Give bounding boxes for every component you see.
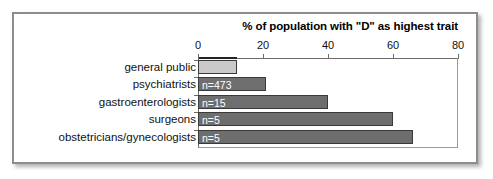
bar-row[interactable]: n=5surgeons — [198, 112, 458, 126]
bar[interactable] — [198, 60, 237, 74]
x-tick-label: 20 — [257, 39, 269, 51]
bar[interactable]: n=15 — [198, 95, 328, 109]
x-tick-mark — [198, 54, 199, 59]
x-tick-label: 40 — [322, 39, 334, 51]
bar[interactable]: n=5 — [198, 112, 393, 126]
x-axis-line-bold-segment — [198, 57, 237, 59]
category-label: surgeons — [0, 112, 196, 126]
x-tick-label: 60 — [387, 39, 399, 51]
bar-row[interactable]: n=5obstetricians/gynecologists — [198, 130, 458, 144]
category-label: psychiatrists — [0, 77, 196, 91]
bar-row[interactable]: n=15gastroenterologists — [198, 95, 458, 109]
bar-sample-size-label: n=473 — [202, 79, 232, 91]
bar-sample-size-label: n=15 — [202, 97, 226, 109]
x-tick-label: 0 — [195, 39, 201, 51]
category-label: obstetricians/gynecologists — [0, 130, 196, 144]
chart-title: % of population with "D" as highest trai… — [14, 20, 458, 32]
x-tick-mark — [263, 54, 264, 59]
bar[interactable]: n=473 — [198, 77, 266, 91]
chart-figure: % of population with "D" as highest trai… — [12, 12, 478, 164]
bar-sample-size-label: n=5 — [202, 114, 220, 126]
x-tick-mark — [393, 54, 394, 59]
category-label: gastroenterologists — [0, 95, 196, 109]
bar-row[interactable]: general public — [198, 60, 458, 74]
plot-area: 020406080 general publicn=473psychiatris… — [198, 59, 458, 147]
category-label: general public — [0, 60, 196, 74]
bar[interactable]: n=5 — [198, 130, 413, 144]
bar-row[interactable]: n=473psychiatrists — [198, 77, 458, 91]
plot-bottom-edge — [198, 147, 458, 148]
x-tick-mark — [458, 54, 459, 59]
bar-sample-size-label: n=5 — [202, 132, 220, 144]
x-tick-label: 80 — [452, 39, 464, 51]
x-tick-mark — [328, 54, 329, 59]
